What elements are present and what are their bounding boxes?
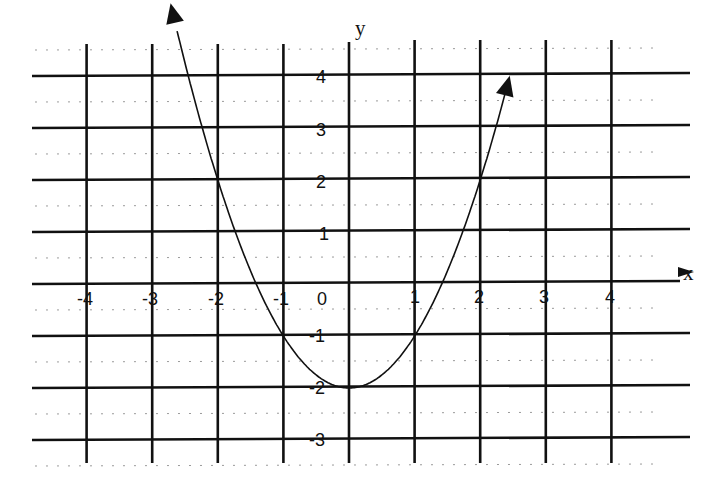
dotted-minor-line (35, 152, 660, 154)
y-tick-label: 1 (319, 224, 329, 244)
x-tick-label: 4 (605, 287, 615, 307)
x-tick-labels: -4 -3 -2 -1 0 1 2 3 4 (77, 287, 615, 309)
x-axis-title: x (683, 261, 694, 285)
y-axis-title: y (355, 16, 366, 40)
x-tick-label: -4 (77, 289, 93, 309)
horizontal-grid-line (32, 437, 690, 440)
x-tick-label: 0 (317, 289, 327, 309)
dotted-minor-line (35, 48, 660, 50)
y-tick-labels: 4 3 2 1 -1 -2 -3 (309, 67, 329, 450)
horizontal-grid-line (32, 73, 690, 76)
horizontal-grid-line (32, 333, 690, 336)
horizontal-grid-line (32, 229, 690, 232)
dotted-minor-line (35, 412, 660, 414)
dotted-minor-line (35, 256, 660, 258)
curve-arrow-left-icon (166, 3, 184, 25)
y-tick-label: -2 (309, 378, 325, 398)
x-tick-label: 3 (539, 287, 549, 307)
dotted-minor-line (35, 360, 660, 362)
horizontal-grid-line (32, 177, 690, 180)
parabola-chart: -4 -3 -2 -1 0 1 2 3 4 4 3 2 1 -1 -2 -3 y… (0, 0, 718, 487)
x-tick-label: -2 (208, 289, 224, 309)
y-tick-label: -3 (309, 430, 325, 450)
major-grid (32, 40, 690, 463)
dotted-minor-line (35, 464, 660, 466)
x-axis-line (32, 281, 680, 284)
y-tick-label: -1 (309, 326, 325, 346)
dotted-minor-line (35, 100, 660, 102)
y-tick-label: 4 (316, 67, 326, 87)
y-tick-label: 3 (316, 120, 326, 140)
curve-arrow-right-icon (496, 76, 513, 98)
minor-dotted-grid (35, 48, 660, 466)
horizontal-grid-line (32, 125, 690, 128)
dotted-minor-line (35, 308, 660, 310)
x-tick-label: 1 (410, 287, 420, 307)
y-tick-label: 2 (316, 172, 326, 192)
dotted-minor-line (35, 204, 660, 206)
x-tick-label: -3 (142, 289, 158, 309)
x-tick-label: 2 (474, 287, 484, 307)
x-tick-label: -1 (273, 289, 289, 309)
